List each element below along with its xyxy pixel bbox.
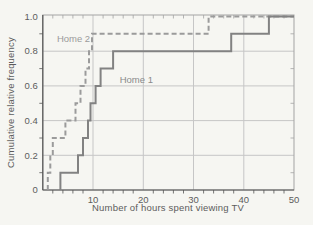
- figure: 102030405000.20.40.60.81.0 Home 2Home 1 …: [0, 0, 313, 225]
- y-axis-title: Cumulative relative frequency: [5, 37, 16, 168]
- y-tick-label-0: 0: [33, 184, 38, 195]
- y-tick-label-0.8: 0.8: [25, 45, 38, 56]
- y-tick-label-1: 1.0: [25, 11, 38, 22]
- x-tick-label-50: 50: [289, 194, 300, 205]
- series-labels: Home 2Home 1: [57, 33, 153, 86]
- y-tick-label-0.6: 0.6: [25, 80, 38, 91]
- y-tick-label-0.2: 0.2: [25, 150, 38, 161]
- x-axis-title: Number of hours spent viewing TV: [92, 202, 244, 213]
- series-label-home-2: Home 2: [57, 33, 90, 44]
- series-label-home-1: Home 1: [120, 74, 153, 85]
- series-line-home-1: [60, 17, 294, 191]
- cumulative-step-chart: 102030405000.20.40.60.81.0 Home 2Home 1 …: [0, 0, 313, 225]
- y-tick-label-0.4: 0.4: [25, 115, 38, 126]
